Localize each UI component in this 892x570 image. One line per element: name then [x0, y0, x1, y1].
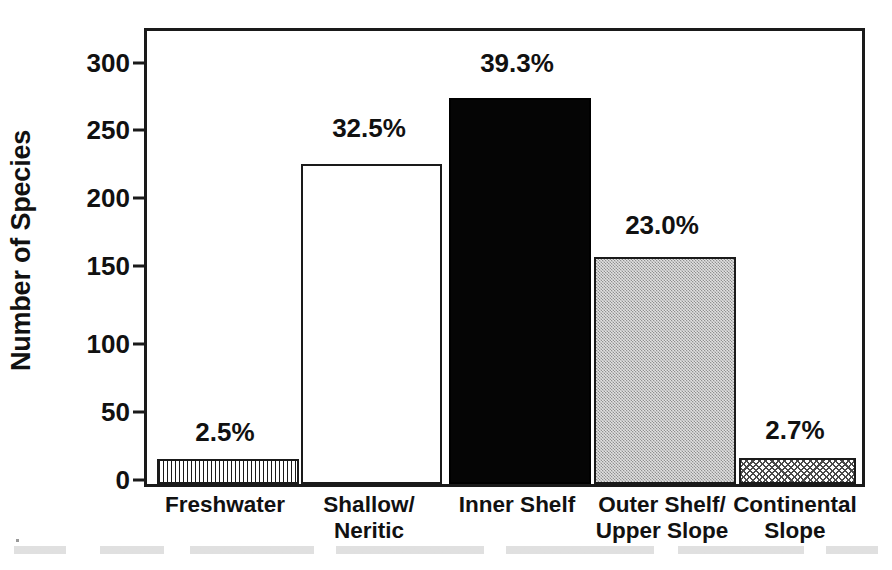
y-tick-label-250: 250: [87, 115, 130, 146]
bar-shallow-neritic: [301, 164, 442, 484]
x-label-freshwater-line1: Freshwater: [165, 492, 285, 517]
scan-artifact-dot: [16, 539, 19, 542]
x-label-inner-shelf: Inner Shelf: [459, 492, 575, 518]
y-axis-title: Number of Species: [0, 0, 44, 500]
x-label-inner-shelf-line1: Inner Shelf: [459, 492, 575, 517]
y-tick-label-0: 0: [116, 465, 130, 496]
y-axis-title-text: Number of Species: [7, 129, 38, 370]
x-label-freshwater: Freshwater: [165, 492, 285, 518]
clipped-caption-remnant: [14, 546, 878, 554]
y-tick-label-150: 150: [87, 251, 130, 282]
data-label-freshwater: 2.5%: [195, 417, 254, 448]
y-tick-label-100: 100: [87, 329, 130, 360]
x-label-outer-shelf-upper-slope: Outer Shelf/ Upper Slope: [596, 492, 729, 545]
data-label-inner-shelf: 39.3%: [480, 48, 554, 79]
x-label-continental-slope: Continental Slope: [733, 492, 857, 545]
x-label-shallow-neritic: Shallow/ Neritic: [323, 492, 414, 545]
x-label-continental-slope-line1: Continental: [733, 492, 857, 517]
x-label-continental-slope-line2: Slope: [733, 518, 857, 544]
data-label-outer-shelf-upper-slope: 23.0%: [625, 210, 699, 241]
y-axis-tick-labels: 300 250 200 150 100 50 0: [46, 0, 130, 570]
bar-continental-slope: [739, 458, 856, 484]
bar-outer-shelf-upper-slope: [594, 257, 736, 484]
data-label-continental-slope: 2.7%: [765, 415, 824, 446]
bar-inner-shelf: [449, 98, 591, 484]
bar-freshwater: [157, 459, 299, 484]
x-label-outer-shelf-upper-slope-line2: Upper Slope: [596, 518, 729, 544]
x-label-shallow-neritic-line2: Neritic: [323, 518, 414, 544]
y-tick-label-200: 200: [87, 183, 130, 214]
y-tick-label-300: 300: [87, 48, 130, 79]
bar-chart-figure: Number of Species 300 250 200 150 100 50…: [0, 0, 892, 570]
x-label-shallow-neritic-line1: Shallow/: [323, 492, 414, 517]
data-label-shallow-neritic: 32.5%: [332, 113, 406, 144]
x-label-outer-shelf-upper-slope-line1: Outer Shelf/: [598, 492, 726, 517]
y-tick-label-50: 50: [101, 397, 130, 428]
